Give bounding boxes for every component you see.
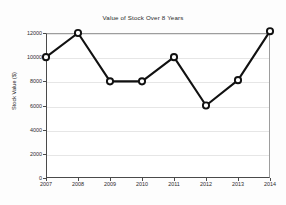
- data-point: [75, 30, 81, 36]
- data-point: [107, 78, 113, 84]
- data-point: [267, 28, 273, 34]
- data-series-layer: [0, 0, 286, 205]
- data-point: [43, 54, 49, 60]
- data-point: [139, 78, 145, 84]
- data-point: [203, 102, 209, 108]
- chart-figure: Value of Stock Over 8 Years Stock Value …: [0, 0, 286, 205]
- data-point: [171, 54, 177, 60]
- data-point: [235, 77, 241, 83]
- stock-value-line: [46, 31, 270, 105]
